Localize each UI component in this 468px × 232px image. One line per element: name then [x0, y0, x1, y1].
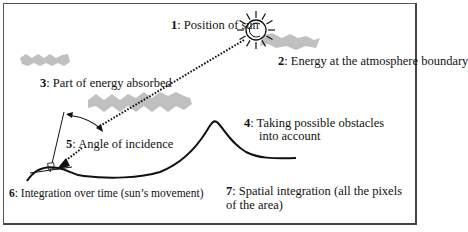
- label-spatial-integration: 7: Spatial integration (all the pixels: [226, 184, 402, 198]
- label-obstacles-line2: into account: [259, 129, 320, 143]
- angle-arc: [66, 112, 103, 132]
- label-spatial-integration-line2: of the area): [226, 198, 283, 212]
- cloud-icon: [20, 54, 70, 66]
- cloud-icon: [88, 92, 192, 112]
- mountain-terrain: [27, 121, 296, 181]
- label-position-of-sun: 1: Position of sun: [171, 18, 259, 32]
- label-energy-at-boundary: 2: Energy at the atmosphere boundary: [278, 54, 468, 68]
- label-integration-time: 6: Integration over time (sun’s movement…: [9, 186, 204, 200]
- label-angle-of-incidence: 5: Angle of incidence: [66, 137, 173, 151]
- label-energy-absorbed: 3: Part of energy absorbed: [40, 76, 172, 90]
- cloud-icon: [260, 33, 320, 50]
- label-obstacles: 4: Taking possible obstacles: [244, 116, 384, 130]
